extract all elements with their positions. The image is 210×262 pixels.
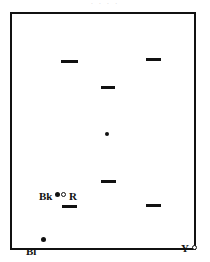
data-marker-dash: [101, 86, 115, 89]
data-marker-circle: [192, 245, 197, 250]
data-marker-dash: [146, 204, 161, 207]
data-marker-dot: [55, 192, 60, 197]
data-marker-dash: [146, 58, 161, 61]
point-label-r: R: [69, 191, 77, 202]
figure-root: · · · · BkRBlY: [0, 0, 210, 262]
point-label-bk: Bk: [39, 191, 52, 202]
data-marker-dash: [62, 205, 77, 208]
data-marker-dot: [41, 237, 46, 242]
data-marker-circle: [61, 192, 66, 197]
data-marker-dot: [105, 132, 109, 136]
point-label-y: Y: [181, 243, 189, 254]
data-marker-dash: [61, 60, 78, 63]
clipped-caption-fragment: · · · ·: [0, 0, 210, 9]
data-marker-dash: [101, 180, 116, 183]
plot-frame: BkRBlY: [10, 12, 196, 250]
point-label-bl: Bl: [26, 246, 36, 257]
